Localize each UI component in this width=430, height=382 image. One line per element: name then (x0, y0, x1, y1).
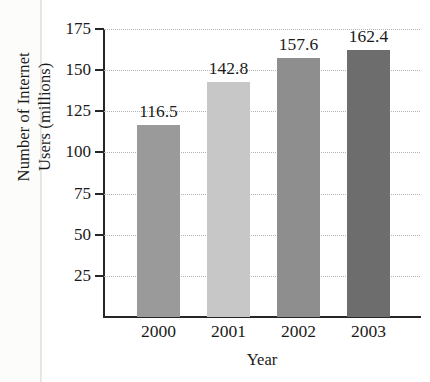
bar-value-label: 116.5 (139, 101, 178, 122)
y-axis-tick-label: 125 (66, 101, 92, 121)
y-axis-tick-label: 150 (66, 60, 92, 80)
bar[interactable]: 116.5 (137, 125, 180, 317)
bar[interactable]: 142.8 (207, 82, 250, 317)
bar-fill (347, 50, 390, 317)
y-axis-title: Number of Internet Users (millions) (14, 0, 56, 247)
bar-chart-figure: Number of Internet Users (millions) 2550… (0, 0, 430, 382)
bar-fill (277, 58, 320, 317)
y-axis-tick-label: 175 (66, 19, 92, 39)
y-axis-tick (95, 69, 104, 71)
y-axis-tick-label: 100 (66, 142, 92, 162)
x-axis-tick-label: 2000 (119, 321, 199, 342)
bar-fill (137, 125, 180, 317)
y-axis-tick (95, 110, 104, 112)
plot-area: 255075100125150175 116.5142.8157.6162.4 … (103, 29, 421, 317)
y-axis-tick (95, 275, 104, 277)
y-axis-title-line2: Users (millions) (35, 0, 56, 247)
y-axis-tick (95, 151, 104, 153)
y-axis-tick-label: 25 (74, 265, 91, 285)
x-axis-tick-label: 2001 (189, 321, 269, 342)
y-axis-tick-label: 50 (74, 224, 91, 244)
x-axis-tick-label: 2002 (259, 321, 339, 342)
y-axis-title-line1: Number of Internet (14, 0, 35, 247)
x-axis-tick-label: 2003 (329, 321, 409, 342)
bar-fill (207, 82, 250, 317)
bar[interactable]: 157.6 (277, 58, 320, 317)
bar-value-label: 157.6 (279, 34, 318, 55)
x-axis-title: Year (103, 350, 421, 370)
y-axis-tick (95, 193, 104, 195)
y-axis-tick (95, 234, 104, 236)
bar[interactable]: 162.4 (347, 50, 390, 317)
bar-value-label: 162.4 (349, 26, 388, 47)
bar-value-label: 142.8 (209, 58, 248, 79)
y-axis-tick-label: 75 (74, 183, 91, 203)
y-axis-tick (95, 28, 104, 30)
